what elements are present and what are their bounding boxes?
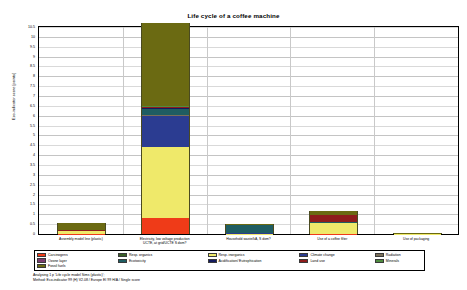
legend-swatch — [37, 258, 46, 262]
bar-segment — [226, 225, 273, 234]
y-axis-tick-label: 9.5 — [30, 45, 35, 49]
legend-label: Ecotoxicity — [129, 259, 146, 263]
legend-item[interactable]: Acidification/ Eutrophication — [208, 259, 300, 264]
y-axis-tick-label: 6.5 — [30, 104, 35, 108]
legend-label: Carcinogens — [48, 253, 68, 257]
footer-line-2: Method: Eco-indicator 99 (H) V2.08 / Eur… — [33, 278, 140, 283]
legend-label: Land use — [310, 259, 324, 263]
legend-swatch — [375, 253, 384, 257]
y-axis-tick-label: 2.5 — [30, 183, 35, 187]
y-axis-tick-label: 3.5 — [30, 163, 35, 167]
legend-swatch — [37, 264, 46, 268]
bar-1[interactable] — [57, 223, 106, 234]
bar-segment — [310, 215, 357, 222]
y-axis-tick-label: 1 — [33, 212, 35, 216]
legend-column: CarcinogensOzone layerFossil fuels — [37, 253, 118, 269]
legend-item[interactable]: Ozone layer — [37, 258, 118, 263]
bar-5[interactable] — [393, 233, 442, 234]
y-axis-tick-label: 1.5 — [30, 202, 35, 206]
legend-column: Resp. inorganicsAcidification/ Eutrophic… — [208, 253, 300, 269]
legend-label: Fossil fuels — [48, 264, 66, 268]
legend-swatch — [299, 259, 308, 263]
y-axis-tick-label: 10.5 — [28, 25, 35, 29]
legend-item[interactable]: Climate change — [299, 253, 374, 258]
legend-item[interactable]: Land use — [299, 259, 374, 264]
page-title: Life cycle of a coffee machine — [0, 12, 467, 19]
y-axis-tick-label: 5 — [33, 133, 35, 137]
legend-column: RadiationMinerals — [375, 253, 422, 269]
legend-label: Radiation — [386, 253, 401, 257]
y-axis-tick-label: 0.5 — [30, 222, 35, 226]
y-axis-tick-label: 10 — [31, 35, 35, 39]
legend-label: Resp. organics — [129, 253, 152, 257]
bar-3[interactable] — [225, 224, 274, 234]
y-axis-tick-label: 7 — [33, 94, 35, 98]
y-axis-tick-label: 3 — [33, 173, 35, 177]
legend-item[interactable]: Resp. inorganics — [208, 253, 300, 258]
bar-segment — [142, 218, 189, 234]
bar-segment — [142, 116, 189, 147]
legend-label: Acidification/ Eutrophication — [219, 259, 262, 263]
chart-page: Life cycle of a coffee machine Eco-indic… — [0, 0, 467, 290]
bar-segment — [142, 147, 189, 218]
legend-swatch — [37, 253, 46, 257]
legend-item[interactable]: Carcinogens — [37, 253, 118, 258]
y-axis-tick-label: 8 — [33, 74, 35, 78]
legend-swatch — [118, 259, 127, 263]
y-axis-ticks: 10.5109.598.587.576.565.554.543.532.521.… — [0, 26, 36, 235]
legend-label: Ozone layer — [48, 259, 67, 263]
bar-2[interactable] — [141, 23, 190, 234]
bar-segment — [142, 23, 189, 106]
y-axis-tick-label: 7.5 — [30, 84, 35, 88]
legend-item[interactable]: Ecotoxicity — [118, 259, 208, 264]
footer-note: Analysing 1 p 'Life cycle model Sims (pl… — [33, 273, 140, 283]
legend-label: Resp. inorganics — [219, 253, 245, 257]
bar-4[interactable] — [309, 211, 358, 234]
legend-swatch — [118, 253, 127, 257]
legend-swatch — [299, 253, 308, 257]
legend-item[interactable]: Minerals — [375, 259, 422, 264]
legend-swatch — [208, 259, 217, 263]
legend-column: Climate changeLand use — [299, 253, 374, 269]
y-axis-tick-label: 0 — [33, 232, 35, 236]
y-axis-tick-label: 6 — [33, 114, 35, 118]
y-axis-tick-label: 4 — [33, 153, 35, 157]
legend-swatch — [375, 259, 384, 263]
legend-swatch — [208, 253, 217, 257]
legend-item[interactable]: Radiation — [375, 253, 422, 258]
bar-segment — [310, 223, 357, 233]
legend-item[interactable]: Fossil fuels — [37, 264, 118, 269]
y-axis-tick-label: 8.5 — [30, 64, 35, 68]
y-axis-tick-label: 4.5 — [30, 143, 35, 147]
chart-legend: CarcinogensOzone layerFossil fuelsResp. … — [34, 250, 425, 271]
legend-column: Resp. organicsEcotoxicity — [118, 253, 208, 269]
bar-series-layer — [39, 27, 458, 234]
x-axis-label: Use of packaging — [367, 237, 465, 241]
y-axis-tick-label: 2 — [33, 193, 35, 197]
legend-label: Minerals — [386, 259, 399, 263]
legend-label: Climate change — [310, 253, 334, 257]
legend-item[interactable]: Resp. organics — [118, 253, 208, 258]
y-axis-tick-label: 9 — [33, 55, 35, 59]
y-axis-tick-label: 5.5 — [30, 124, 35, 128]
bar-segment — [58, 223, 105, 230]
